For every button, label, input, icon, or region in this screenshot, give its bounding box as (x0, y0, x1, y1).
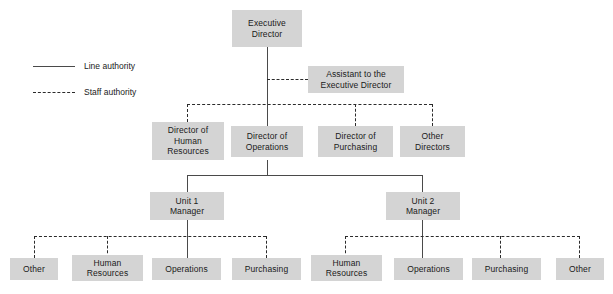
node-unit2-human-resources[interactable]: Human Resources (311, 255, 382, 281)
node-unit2-other-label: Other (569, 264, 591, 275)
connector-operations-stem (267, 160, 268, 175)
org-chart-canvas: Line authority Staff authority Executive… (0, 0, 613, 294)
node-executive-director-label: Executive Director (248, 18, 286, 39)
node-unit1-purchasing-label: Purchasing (245, 264, 289, 275)
chart-title (150, 0, 410, 1)
node-unit1-human-resources[interactable]: Human Resources (72, 255, 143, 281)
node-executive-director[interactable]: Executive Director (232, 10, 302, 47)
solid-line-icon (33, 66, 75, 67)
node-unit2-manager[interactable]: Unit 2 Manager (386, 192, 460, 220)
node-unit1-manager[interactable]: Unit 1 Manager (150, 192, 224, 220)
legend-label-staff-authority: Staff authority (84, 87, 136, 97)
legend-item-staff-authority: Staff authority (33, 82, 183, 102)
node-director-operations-label: Director of Operations (246, 131, 289, 152)
connector-unit2-bus (345, 236, 580, 237)
connector-exec-stem (267, 47, 268, 104)
connector-unit1-stem (187, 220, 188, 260)
node-assistant-label: Assistant to the Executive Director (321, 69, 392, 90)
connector-drop-director-hr (187, 104, 188, 122)
connector-drop-unit1-manager (187, 175, 188, 192)
connector-unit2-stem (422, 220, 423, 260)
connector-drop-unit2-purchasing (500, 236, 501, 258)
node-other-directors[interactable]: Other Directors (400, 126, 465, 157)
dashed-line-icon (33, 92, 75, 93)
node-director-operations[interactable]: Director of Operations (231, 126, 303, 157)
node-other-directors-label: Other Directors (415, 131, 450, 152)
connector-drop-unit1-other (34, 236, 35, 258)
node-director-purchasing-label: Director of Purchasing (334, 131, 378, 152)
node-unit1-operations[interactable]: Operations (152, 258, 221, 280)
node-unit2-purchasing-label: Purchasing (485, 264, 529, 275)
connector-drop-director-purchasing (355, 104, 356, 126)
node-unit1-hr-label: Human Resources (87, 258, 129, 279)
connector-drop-director-other (432, 104, 433, 126)
legend-label-line-authority: Line authority (84, 61, 135, 71)
connector-unit-bus (187, 175, 423, 176)
connector-drop-unit1-purchasing (266, 236, 267, 258)
connector-drop-director-operations (267, 104, 268, 126)
connector-exec-to-assistant (267, 79, 308, 80)
node-director-human-resources[interactable]: Director of Human Resources (152, 122, 224, 160)
legend-item-line-authority: Line authority (33, 56, 183, 76)
node-unit2-purchasing[interactable]: Purchasing (472, 258, 541, 280)
node-unit2-other[interactable]: Other (556, 258, 604, 280)
node-unit2-hr-label: Human Resources (326, 258, 368, 279)
node-unit1-other[interactable]: Other (10, 258, 58, 280)
connector-director-bus (187, 104, 432, 105)
node-unit1-other-label: Other (23, 264, 45, 275)
connector-drop-unit2-other (579, 236, 580, 258)
node-assistant-to-executive-director[interactable]: Assistant to the Executive Director (308, 66, 404, 93)
connector-unit1-bus (34, 236, 266, 237)
node-unit2-manager-label: Unit 2 Manager (406, 196, 440, 217)
node-director-hr-label: Director of Human Resources (167, 125, 209, 157)
node-unit1-manager-label: Unit 1 Manager (170, 196, 204, 217)
legend: Line authority Staff authority (33, 56, 183, 108)
node-unit1-purchasing[interactable]: Purchasing (232, 258, 301, 280)
node-unit1-operations-label: Operations (165, 264, 208, 275)
node-director-purchasing[interactable]: Director of Purchasing (318, 126, 393, 157)
node-unit2-operations-label: Operations (407, 264, 450, 275)
node-unit2-operations[interactable]: Operations (394, 258, 463, 280)
connector-drop-unit2-manager (422, 175, 423, 192)
